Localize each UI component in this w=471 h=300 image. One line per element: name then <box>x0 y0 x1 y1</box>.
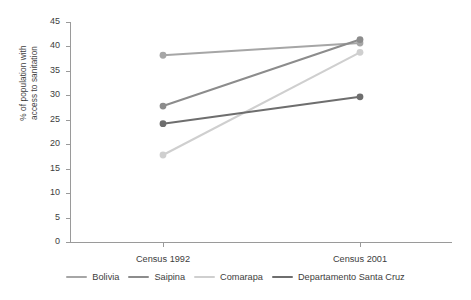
legend-label: Saipina <box>154 272 185 282</box>
y-axis-title-line-1: % of population with <box>19 3 30 163</box>
y-tick-label-15: 15 <box>50 163 60 173</box>
x-tick-label-1: Census 2001 <box>333 254 387 264</box>
y-tick-label-0: 0 <box>55 236 60 246</box>
legend-swatch-icon <box>194 276 215 279</box>
legend-item-departamento-santa-cruz[interactable]: Departamento Santa Cruz <box>272 272 405 282</box>
x-axis-line <box>70 242 452 243</box>
plot-area: 454035302520151050 Census 1992Census 200… <box>70 22 452 242</box>
legend-item-bolivia[interactable]: Bolivia <box>66 272 119 282</box>
chart-legend: BoliviaSaipinaComarapaDepartamento Santa… <box>0 272 471 282</box>
data-point <box>357 36 364 43</box>
legend-label: Departamento Santa Cruz <box>298 272 405 282</box>
data-point <box>160 103 167 110</box>
legend-label: Comarapa <box>220 272 263 282</box>
y-tick-label-30: 30 <box>50 89 60 99</box>
data-point <box>160 152 167 159</box>
y-tick-label-10: 10 <box>50 187 60 197</box>
series-comarapa <box>160 49 364 158</box>
y-tick-label-40: 40 <box>50 40 60 50</box>
series-saipina <box>160 36 364 109</box>
y-tick-label-5: 5 <box>55 212 60 222</box>
y-tick-0: 0 <box>66 242 70 243</box>
series-line <box>163 97 360 124</box>
y-axis-title: % of population with access to sanitatio… <box>19 3 49 163</box>
y-tick-label-20: 20 <box>50 138 60 148</box>
series-departamento-santa-cruz <box>160 93 364 127</box>
line-chart: % of population with access to sanitatio… <box>0 0 471 300</box>
x-tick-0 <box>163 242 164 247</box>
data-point <box>357 93 364 100</box>
data-point <box>357 49 364 56</box>
legend-item-saipina[interactable]: Saipina <box>128 272 185 282</box>
y-tick-label-35: 35 <box>50 65 60 75</box>
legend-label: Bolivia <box>92 272 119 282</box>
data-point <box>160 120 167 127</box>
legend-swatch-icon <box>272 276 293 279</box>
legend-swatch-icon <box>66 276 87 279</box>
y-tick-label-25: 25 <box>50 114 60 124</box>
series-layer <box>70 22 452 242</box>
legend-item-comarapa[interactable]: Comarapa <box>194 272 263 282</box>
x-tick-1 <box>360 242 361 247</box>
series-line <box>163 52 360 155</box>
legend-swatch-icon <box>128 276 149 279</box>
x-tick-label-0: Census 1992 <box>136 254 190 264</box>
y-tick-label-45: 45 <box>50 16 60 26</box>
data-point <box>160 52 167 59</box>
y-axis-title-line-2: access to sanitation <box>30 3 41 163</box>
